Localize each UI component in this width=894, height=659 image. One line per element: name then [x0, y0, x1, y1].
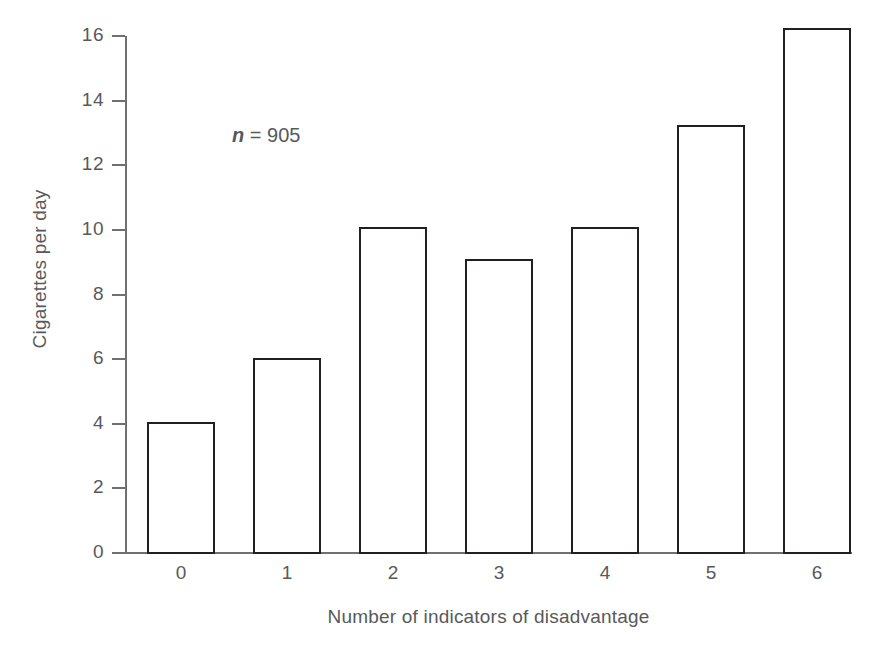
y-axis-tick-label: 16 — [40, 24, 104, 44]
x-axis-tick-label: 1 — [253, 562, 321, 584]
bar — [783, 28, 851, 554]
y-axis-tick — [112, 294, 125, 296]
y-axis-title: Cigarettes per day — [29, 169, 51, 369]
y-axis-tick-label: 14 — [40, 89, 104, 109]
y-axis-line — [125, 36, 127, 554]
x-axis-title: Number of indicators of disadvantage — [125, 606, 852, 628]
y-axis-tick-label-text: 10 — [44, 218, 104, 240]
y-axis-tick — [112, 229, 125, 231]
chart-page: 0246810121416 0123456 n = 905 Number of … — [0, 0, 894, 659]
x-axis-tick-label: 6 — [783, 562, 851, 584]
y-axis-tick — [112, 358, 125, 360]
bar — [571, 227, 639, 554]
y-axis-tick-label-text: 14 — [44, 89, 104, 111]
x-axis-tick-label: 4 — [571, 562, 639, 584]
y-axis-tick-label-text: 12 — [44, 153, 104, 175]
bar — [677, 125, 745, 554]
sample-size-value: 905 — [267, 124, 300, 146]
y-axis-tick — [112, 552, 125, 554]
y-axis-tick — [112, 35, 125, 37]
bar — [465, 259, 533, 554]
y-axis-tick-label-text: 8 — [44, 283, 104, 305]
x-axis-tick-label: 2 — [359, 562, 427, 584]
y-axis-tick-label-text: 0 — [44, 541, 104, 563]
y-axis-tick-label: 4 — [40, 412, 104, 432]
sample-size-separator: = — [244, 124, 267, 146]
bar-chart-plot-area: 0246810121416 0123456 n = 905 Number of … — [0, 0, 894, 659]
y-axis-tick — [112, 423, 125, 425]
sample-size-variable: n — [232, 124, 244, 146]
y-axis-tick-label-text: 2 — [44, 476, 104, 498]
x-axis-tick-label: 3 — [465, 562, 533, 584]
bar — [147, 422, 215, 554]
y-axis-tick-label: 2 — [40, 476, 104, 496]
bar — [253, 358, 321, 554]
x-axis-tick-label: 0 — [147, 562, 215, 584]
y-axis-tick-label-text: 6 — [44, 347, 104, 369]
y-axis-tick — [112, 487, 125, 489]
y-axis-tick-label-text: 4 — [44, 412, 104, 434]
y-axis-tick — [112, 164, 125, 166]
y-axis-tick — [112, 100, 125, 102]
x-axis-tick-label: 5 — [677, 562, 745, 584]
y-axis-tick-label-text: 16 — [44, 24, 104, 46]
bar — [359, 227, 427, 554]
sample-size-annotation: n = 905 — [232, 124, 300, 147]
y-axis-tick-label: 0 — [40, 541, 104, 561]
